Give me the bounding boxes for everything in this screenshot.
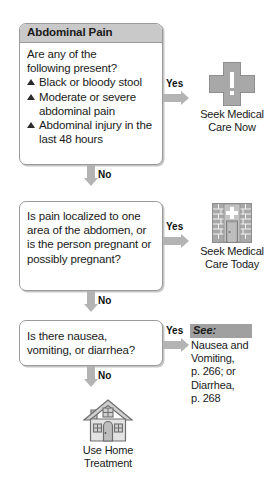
arrow-stem (163, 341, 181, 349)
question-box-1: Abdominal Pain Are any of the following … (19, 23, 163, 165)
list-item: Moderate or severe abdominal pain (27, 90, 156, 118)
no-arrow-2 (84, 291, 98, 312)
triangle-bullet-icon (27, 79, 35, 85)
no-arrow-3 (84, 366, 98, 387)
arrow-stem (87, 291, 95, 304)
question-box-3-body: Is there nausea, vomiting, or diarrhea? (20, 321, 162, 361)
arrow-head-icon (181, 338, 189, 352)
outcome-use-home-treatment: Use Home Treatment (62, 398, 154, 469)
list-item-label: Abdominal injury in the last 48 hours (39, 119, 152, 145)
question-box-1-header: Abdominal Pain (20, 24, 162, 43)
no-label-2: No (98, 295, 111, 306)
no-arrow-1 (84, 165, 98, 186)
question-box-2-intro: Is pain localized to one area of the abd… (27, 209, 156, 266)
clinic-building-icon (212, 203, 252, 243)
no-label-3: No (98, 370, 111, 381)
question-box-1-bullet-list: Black or bloody stool Moderate or severe… (27, 75, 156, 146)
question-box-2-body: Is pain localized to one area of the abd… (20, 202, 162, 270)
triangle-bullet-icon (27, 94, 35, 100)
arrow-head-icon (84, 178, 98, 186)
see-also-callout: See: Nausea and Vomiting, p. 266; or Dia… (190, 320, 268, 405)
see-also-body: Nausea and Vomiting, p. 266; or Diarrhea… (190, 338, 268, 405)
question-box-1-body: Are any of the following present? Black … (20, 43, 162, 150)
arrow-stem (163, 94, 181, 102)
medical-cross-alert-icon (209, 62, 255, 106)
list-item-label: Black or bloody stool (39, 76, 142, 88)
yes-label-1: Yes (166, 78, 183, 89)
question-box-2: Is pain localized to one area of the abd… (19, 201, 163, 291)
question-box-1-intro: Are any of the following present? (27, 47, 156, 75)
see-also-header: See: (190, 324, 252, 338)
yes-arrow-3 (163, 338, 189, 352)
arrow-head-icon (84, 304, 98, 312)
yes-label-2: Yes (166, 221, 183, 232)
question-box-3-intro: Is there nausea, vomiting, or diarrhea? (27, 329, 156, 357)
home-icon (82, 398, 134, 442)
outcome-seek-medical-care-now: Seek Medical Care Now (186, 62, 278, 133)
clinic-building-glyph (212, 203, 252, 243)
outcome-seek-medical-care-today: Seek Medical Care Today (186, 203, 278, 270)
list-item: Abdominal injury in the last 48 hours (27, 118, 156, 146)
home-glyph (82, 398, 134, 442)
list-item-label: Moderate or severe abdominal pain (39, 91, 136, 117)
no-label-1: No (98, 169, 111, 180)
list-item: Black or bloody stool (27, 75, 156, 89)
yes-label-3: Yes (166, 325, 183, 336)
exclamation-dot-icon (230, 91, 234, 95)
arrow-head-icon (84, 379, 98, 387)
arrow-stem (87, 366, 95, 379)
outcome-label: Use Home Treatment (62, 444, 154, 469)
question-box-3: Is there nausea, vomiting, or diarrhea? (19, 320, 163, 366)
arrow-stem (87, 165, 95, 178)
arrow-stem (163, 237, 181, 245)
outcome-label: Seek Medical Care Today (186, 245, 278, 270)
triangle-bullet-icon (27, 122, 35, 128)
outcome-label: Seek Medical Care Now (186, 108, 278, 133)
exclamation-stroke-icon (230, 72, 234, 88)
